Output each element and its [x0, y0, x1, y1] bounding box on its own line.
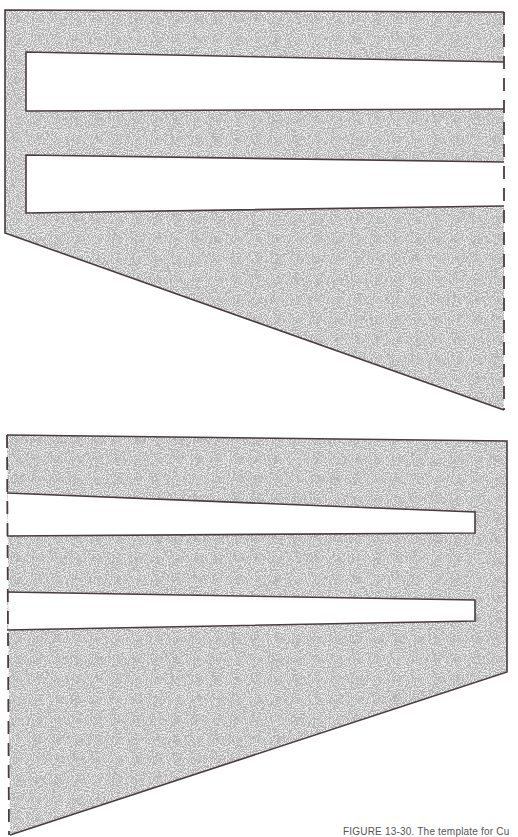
lower-template-piece: [0, 425, 518, 837]
lower-stipple-fill: [0, 425, 518, 837]
upper-template-piece: [0, 0, 518, 420]
template-figure: [0, 0, 518, 837]
upper-slot-2: [26, 155, 504, 213]
figure-caption: FIGURE 13-30. The template for Cu: [343, 826, 509, 837]
upper-slot-1: [26, 52, 504, 111]
